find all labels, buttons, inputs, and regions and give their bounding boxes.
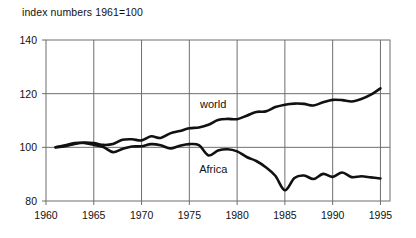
x-tick-label: 1990 xyxy=(321,209,345,221)
line-chart-plot: 19601965197019751980198519901995 8010012… xyxy=(0,0,416,238)
series-annotations: worldworldAfricaAfrica xyxy=(199,98,228,174)
annotation-label-world: world xyxy=(199,98,226,110)
y-tick-label: 120 xyxy=(19,88,37,100)
x-tick-label: 1980 xyxy=(225,209,249,221)
x-tick-label: 1985 xyxy=(273,209,297,221)
x-axis-tick-labels: 19601965197019751980198519901995 xyxy=(34,209,392,221)
x-tick-label: 1995 xyxy=(369,209,393,221)
x-axis-ticks xyxy=(46,201,380,205)
annotation-label-africa: Africa xyxy=(199,163,228,175)
vertical-gridlines xyxy=(94,40,381,201)
y-tick-label: 80 xyxy=(25,195,37,207)
y-axis-ticks xyxy=(42,40,46,201)
y-tick-label: 100 xyxy=(19,141,37,153)
x-tick-label: 1965 xyxy=(82,209,106,221)
chart-container: index numbers 1961=100 19601965197019751… xyxy=(0,0,416,238)
y-tick-label: 140 xyxy=(19,34,37,46)
y-axis-tick-labels: 80100120140 xyxy=(19,34,37,207)
series-line-world xyxy=(56,88,381,147)
x-tick-label: 1975 xyxy=(178,209,202,221)
x-tick-label: 1970 xyxy=(130,209,154,221)
x-tick-label: 1960 xyxy=(34,209,58,221)
